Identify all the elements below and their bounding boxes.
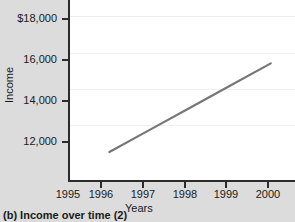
line-series-income xyxy=(109,63,270,152)
x-axis-spine xyxy=(68,180,295,182)
y-axis-tick xyxy=(62,100,69,102)
data-series-layer xyxy=(69,0,295,181)
figure: $18,000 16,000 14,000 12,000 10,000 1995… xyxy=(0,0,295,222)
y-axis-title: Income xyxy=(3,55,15,115)
figure-caption: (b) Income over time (2) xyxy=(3,209,127,221)
x-axis-tick-label: 1998 xyxy=(165,189,205,200)
y-axis-tick xyxy=(62,18,69,20)
x-axis-title: Years xyxy=(125,202,153,214)
x-axis-tick-label: 1996 xyxy=(81,189,121,200)
y-axis-tick xyxy=(62,141,69,143)
y-axis-tick-label: $18,000 xyxy=(0,13,57,24)
x-axis-tick-label: 1997 xyxy=(123,189,163,200)
plot-area xyxy=(69,0,295,181)
x-axis-tick-label: 1999 xyxy=(206,189,246,200)
y-axis-tick-label: 12,000 xyxy=(0,136,57,147)
x-axis-tick-label: 2000 xyxy=(248,189,288,200)
y-axis-spine xyxy=(68,0,70,182)
y-axis-tick xyxy=(62,59,69,61)
